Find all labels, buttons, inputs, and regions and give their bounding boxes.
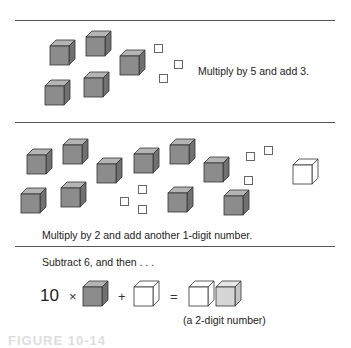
equation-plus: + xyxy=(118,289,126,304)
equation-equals: = xyxy=(170,289,178,304)
result-ones-cube xyxy=(215,280,242,311)
rule-middle xyxy=(15,122,335,123)
ten-cube xyxy=(20,187,47,218)
rule-lower xyxy=(15,246,335,247)
unit-square xyxy=(246,152,255,161)
ten-cube xyxy=(26,148,53,179)
unit-square xyxy=(138,205,147,214)
equation-multiplier: 10 xyxy=(40,286,59,306)
ten-cube xyxy=(49,39,76,70)
unit-square xyxy=(159,74,168,83)
unit-square xyxy=(154,44,163,53)
unit-square xyxy=(264,146,273,155)
ten-cube xyxy=(223,189,250,220)
ten-cube xyxy=(96,157,123,188)
ten-cube xyxy=(169,138,196,169)
ten-cube xyxy=(44,79,71,110)
unit-square xyxy=(120,197,129,206)
equation-gray-cube xyxy=(82,280,109,311)
ten-cube xyxy=(133,147,160,178)
ten-cube xyxy=(119,49,146,80)
rule-top xyxy=(15,20,335,21)
ten-cube xyxy=(85,30,112,61)
ten-cube xyxy=(167,186,194,217)
equation-times: × xyxy=(69,289,77,304)
white-cube xyxy=(292,158,319,189)
equation-white-cube xyxy=(133,280,160,311)
unit-square xyxy=(174,60,183,69)
ten-cube xyxy=(62,138,89,169)
unit-square xyxy=(244,176,253,185)
panel-2-instruction: Multiply by 2 and add another 1-digit nu… xyxy=(42,229,252,241)
ten-cube xyxy=(60,181,87,212)
ten-cube xyxy=(83,71,110,102)
figure-caption: FIGURE 10-14 xyxy=(8,333,106,348)
result-tens-cube xyxy=(188,280,215,311)
result-caption: (a 2-digit number) xyxy=(183,314,266,326)
ten-cube xyxy=(203,156,230,187)
panel-1-instruction: Multiply by 5 and add 3. xyxy=(198,65,309,77)
panel-3-instruction: Subtract 6, and then . . . xyxy=(42,256,154,268)
unit-square xyxy=(138,185,147,194)
